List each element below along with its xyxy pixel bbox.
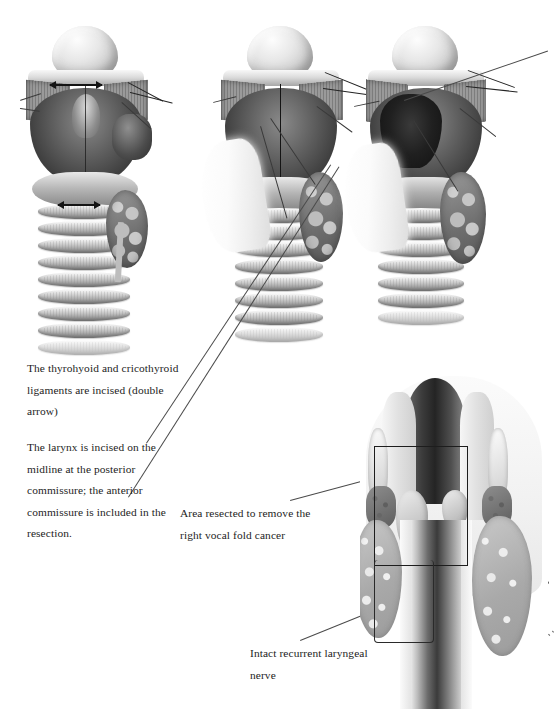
thyroid-gland-lobe xyxy=(106,190,148,268)
thyroid-gland-lobe xyxy=(440,172,486,264)
resection-box-outline xyxy=(374,446,468,566)
caption-larynx-incised-midline: The larynx is incised on the midline at … xyxy=(27,437,192,545)
caption-thyrohyoid-cricothyroid: The thyrohyoid and cricothyroid ligament… xyxy=(27,358,187,423)
surgical-clamp-tissue xyxy=(112,114,152,160)
caption-intact-recurrent-laryngeal-nerve: Intact recurrent laryngeal nerve xyxy=(250,643,380,686)
larynx-posterior-view-ligaments xyxy=(18,22,173,352)
resection-lower-outline xyxy=(374,560,434,643)
double-arrow-thyrohyoid xyxy=(50,84,102,86)
coronal-section-larynx xyxy=(360,370,548,709)
double-arrow-cricothyroid xyxy=(58,204,100,206)
larynx-opened-exposed-lumen xyxy=(352,22,517,352)
caption-area-resected: Area resected to remove the right vocal … xyxy=(180,503,330,546)
